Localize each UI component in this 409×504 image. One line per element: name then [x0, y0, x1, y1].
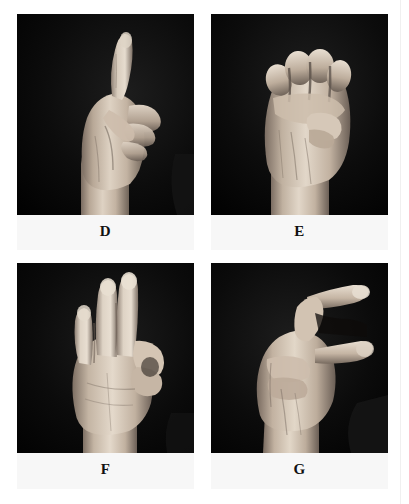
figure-page: D	[0, 0, 409, 504]
figure-panel-e: E	[211, 14, 388, 250]
panel-caption-f: F	[17, 453, 194, 489]
panel-caption-g: G	[211, 453, 388, 489]
asl-hand-g-illustration	[211, 263, 388, 453]
asl-hand-d-illustration	[17, 14, 194, 215]
figure-panel-d: D	[17, 14, 194, 250]
panel-caption-e: E	[211, 215, 388, 250]
panel-caption-d: D	[17, 215, 194, 250]
asl-hand-e-illustration	[211, 14, 388, 215]
hand-photo-g	[211, 263, 388, 453]
figure-panel-f: F	[17, 263, 194, 489]
hand-photo-e	[211, 14, 388, 215]
hand-photo-f	[17, 263, 194, 453]
asl-hand-f-illustration	[17, 263, 194, 453]
figure-grid: D	[0, 0, 409, 504]
figure-panel-g: G	[211, 263, 388, 489]
hand-photo-d	[17, 14, 194, 215]
